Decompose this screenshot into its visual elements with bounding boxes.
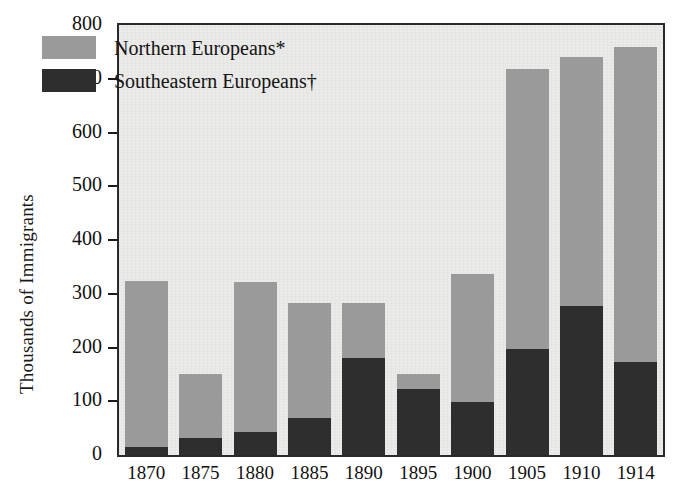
y-axis-tick-label: 300 bbox=[72, 281, 102, 304]
bar-group-1875 bbox=[179, 374, 222, 455]
bar-segment-northern-1910 bbox=[560, 57, 603, 305]
x-axis-tick-label: 1914 bbox=[601, 462, 671, 484]
bar-segment-northern-1895 bbox=[397, 374, 440, 389]
bar-group-1900 bbox=[451, 274, 494, 455]
bar-segment-southeastern-1885 bbox=[288, 418, 331, 455]
bar-segment-northern-1880 bbox=[234, 282, 277, 433]
bar-segment-southeastern-1895 bbox=[397, 389, 440, 455]
bar-group-1895 bbox=[397, 374, 440, 455]
y-axis-tick-label: 400 bbox=[72, 227, 102, 250]
bar-group-1880 bbox=[234, 282, 277, 455]
y-axis-tick-label: 600 bbox=[72, 120, 102, 143]
bar-group-1885 bbox=[288, 303, 331, 455]
bar-segment-southeastern-1910 bbox=[560, 306, 603, 455]
bar-segment-southeastern-1890 bbox=[342, 358, 385, 455]
bar-segment-northern-1875 bbox=[179, 374, 222, 437]
legend-swatch bbox=[42, 69, 96, 92]
bar-segment-northern-1890 bbox=[342, 303, 385, 358]
x-axis: 1870187518801885189018951900190519101914 bbox=[117, 462, 665, 492]
bar-segment-northern-1914 bbox=[614, 47, 657, 363]
y-axis-tick-label: 500 bbox=[72, 173, 102, 196]
bar-segment-southeastern-1870 bbox=[125, 447, 168, 455]
legend-label: Northern Europeans* bbox=[114, 38, 286, 58]
bar-segment-southeastern-1914 bbox=[614, 362, 657, 455]
bar-segment-southeastern-1880 bbox=[234, 432, 277, 455]
bar-segment-southeastern-1875 bbox=[179, 438, 222, 455]
bar-segment-northern-1870 bbox=[125, 281, 168, 447]
bar-group-1914 bbox=[614, 47, 657, 456]
y-axis-tick-label: 0 bbox=[92, 442, 102, 465]
chart-legend: Northern Europeans*Southeastern European… bbox=[42, 31, 317, 97]
bar-segment-northern-1885 bbox=[288, 303, 331, 419]
y-axis-tick-label: 100 bbox=[72, 388, 102, 411]
bar-group-1910 bbox=[560, 57, 603, 455]
legend-label: Southeastern Europeans† bbox=[114, 71, 317, 91]
bar-segment-northern-1905 bbox=[506, 69, 549, 349]
bar-segment-northern-1900 bbox=[451, 274, 494, 402]
bar-segment-southeastern-1900 bbox=[451, 402, 494, 455]
legend-item-southeastern: Southeastern Europeans† bbox=[42, 64, 317, 97]
y-axis-tick-label: 200 bbox=[72, 335, 102, 358]
bar-group-1905 bbox=[506, 69, 549, 455]
legend-swatch bbox=[42, 36, 96, 59]
bar-group-1890 bbox=[342, 303, 385, 455]
immigration-stacked-bar-chart: Thousands of Immigrants 0100200300400500… bbox=[0, 0, 682, 502]
legend-item-northern: Northern Europeans* bbox=[42, 31, 317, 64]
bar-group-1870 bbox=[125, 281, 168, 455]
bar-segment-southeastern-1905 bbox=[506, 349, 549, 455]
